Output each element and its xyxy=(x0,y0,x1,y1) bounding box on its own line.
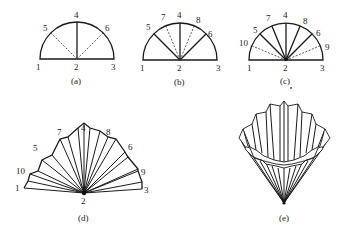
label-9: 9 xyxy=(325,42,330,52)
crease-2-8 xyxy=(180,26,194,60)
label-7: 7 xyxy=(161,12,166,22)
label-5: 5 xyxy=(253,25,258,35)
label-7: 7 xyxy=(57,127,62,137)
panel-c: 1 2 3 4 5 6 7 8 9 10 (c) xyxy=(239,10,330,89)
panel-a: 1 2 3 4 5 6 (a) xyxy=(36,10,116,86)
label-1: 1 xyxy=(140,63,145,73)
label-8: 8 xyxy=(106,127,111,137)
folding-diagram: 1 2 3 4 5 6 (a) 1 2 3 4 5 6 7 8 (b) 1 xyxy=(0,0,340,234)
crease-2-7 xyxy=(166,26,180,60)
label-3: 3 xyxy=(216,63,221,73)
apex-point xyxy=(82,191,86,195)
label-4: 4 xyxy=(81,123,86,133)
caption-a: (a) xyxy=(71,76,81,86)
label-1: 1 xyxy=(36,62,41,72)
label-8: 8 xyxy=(303,16,308,26)
label-3: 3 xyxy=(111,62,116,72)
label-2: 2 xyxy=(74,62,79,72)
label-1: 1 xyxy=(15,183,20,193)
crease-2-8 xyxy=(286,26,300,60)
cone-apex xyxy=(282,201,285,204)
label-7: 7 xyxy=(266,13,271,23)
panel-e: (e) xyxy=(239,101,330,223)
label-3: 3 xyxy=(320,63,325,73)
label-2: 2 xyxy=(177,63,182,73)
label-2: 2 xyxy=(283,63,288,73)
caption-d: (d) xyxy=(78,213,89,223)
label-10: 10 xyxy=(16,166,26,176)
fan-creases xyxy=(24,123,142,193)
label-5: 5 xyxy=(33,143,38,153)
label-6: 6 xyxy=(105,23,110,33)
label-4: 4 xyxy=(74,10,79,20)
label-4: 4 xyxy=(177,10,182,20)
label-6: 6 xyxy=(128,142,133,152)
label-9: 9 xyxy=(141,167,146,177)
crease-2-5 xyxy=(260,34,286,60)
crease-2-5 xyxy=(154,34,180,60)
crease-2-7 xyxy=(272,26,286,60)
label-6: 6 xyxy=(316,28,321,38)
label-5: 5 xyxy=(146,22,151,32)
label-3: 3 xyxy=(144,185,149,195)
crease-2-6 xyxy=(286,34,312,60)
caption-e: (e) xyxy=(279,213,289,223)
crease-2-6 xyxy=(77,33,103,59)
label-4: 4 xyxy=(283,10,288,20)
label-1: 1 xyxy=(247,63,252,73)
label-5: 5 xyxy=(43,23,48,33)
label-2: 2 xyxy=(81,196,86,206)
panel-d: 1 2 3 4 5 6 7 8 9 10 (d) xyxy=(15,123,149,223)
label-8: 8 xyxy=(196,15,201,25)
caption-b: (b) xyxy=(174,77,185,87)
crease-2-5 xyxy=(51,33,77,59)
panel-b: 1 2 3 4 5 6 7 8 (b) xyxy=(140,10,221,87)
caption-c: (c) xyxy=(280,76,290,86)
label-10: 10 xyxy=(239,38,249,48)
center-point xyxy=(284,58,288,62)
label-6: 6 xyxy=(208,29,213,39)
stray-dot xyxy=(290,87,292,89)
crease-2-6 xyxy=(180,34,206,60)
